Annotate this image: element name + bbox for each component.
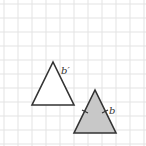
- original-side-label: b: [109, 105, 115, 116]
- image-side-label: b′: [61, 65, 70, 76]
- grid: [0, 0, 146, 146]
- reflection-diagram: b′ b: [0, 0, 146, 146]
